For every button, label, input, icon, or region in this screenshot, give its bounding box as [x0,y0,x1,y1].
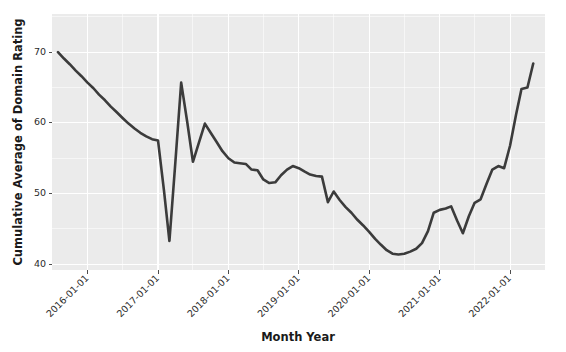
y-tick-label: 70 [34,46,46,57]
y-tick-label: 60 [34,116,46,127]
x-axis-title: Month Year [261,330,335,344]
y-tick-label: 40 [34,258,46,269]
chart-container: 40506070 2016-01-012017-01-012018-01-012… [0,0,566,352]
y-axis-title: Cumulative Average of Domain Rating [11,18,25,265]
line-chart: 40506070 2016-01-012017-01-012018-01-012… [0,0,566,352]
y-tick-label: 50 [34,187,46,198]
